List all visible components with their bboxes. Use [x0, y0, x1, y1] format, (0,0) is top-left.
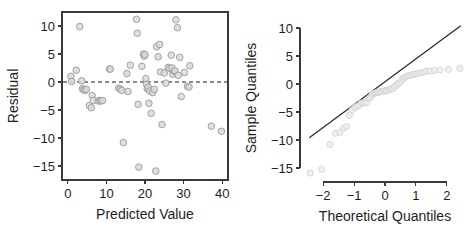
x-tick-label: 10: [99, 186, 113, 201]
y-axis-title: Sample Quantiles: [243, 43, 259, 154]
data-point: [76, 23, 83, 30]
data-point: [208, 123, 215, 130]
x-tick-label: 2: [443, 188, 450, 203]
data-point: [99, 97, 106, 104]
data-point: [163, 80, 170, 87]
x-tick-label: 20: [138, 186, 152, 201]
data-point: [178, 93, 185, 100]
y-tick-label: 0: [48, 75, 55, 90]
qq-reference-line: [309, 26, 460, 138]
data-point: [148, 110, 155, 117]
data-point: [327, 141, 333, 147]
data-point: [136, 164, 143, 171]
x-tick-label: 1: [412, 188, 419, 203]
data-point: [127, 62, 134, 69]
y-axis-title: Residual: [5, 69, 21, 123]
data-point: [445, 66, 451, 72]
data-point: [344, 123, 350, 129]
y-tick-label: −10: [271, 133, 293, 148]
data-point: [153, 168, 160, 175]
data-point: [175, 72, 182, 79]
x-tick-label: 40: [215, 186, 229, 201]
y-tick-label: −15: [271, 161, 293, 176]
data-point: [120, 139, 127, 146]
plot-frame: [62, 12, 228, 180]
data-point: [83, 86, 90, 93]
data-point: [307, 170, 313, 176]
y-tick-label: 10: [279, 21, 293, 36]
y-tick-label: −15: [33, 159, 55, 174]
y-tick-label: −10: [33, 131, 55, 146]
data-point: [173, 17, 180, 24]
data-point: [119, 87, 126, 94]
data-point: [319, 166, 325, 172]
data-point: [107, 66, 114, 73]
data-point: [176, 54, 183, 61]
data-point: [73, 67, 80, 74]
residual-plot-panel: 1050−5−10−15010203040Predicted ValueResi…: [0, 0, 238, 238]
data-point: [186, 84, 193, 91]
data-point: [457, 65, 463, 71]
data-point: [125, 88, 132, 95]
y-tick-label: 0: [286, 77, 293, 92]
y-tick-label: −5: [278, 105, 293, 120]
data-point: [146, 100, 153, 107]
x-tick-label: −1: [347, 188, 362, 203]
y-tick-label: 5: [48, 47, 55, 62]
residual-and-qq-figure: 1050−5−10−15010203040Predicted ValueResi…: [0, 0, 475, 238]
y-tick-label: 10: [41, 19, 55, 34]
data-point: [78, 78, 85, 85]
data-point: [133, 16, 140, 23]
data-point: [218, 128, 225, 135]
qq-plot-svg: 1050−5−10−15−2−1012Theoretical Quantiles…: [238, 0, 475, 238]
data-point: [437, 67, 443, 73]
y-tick-label: 5: [286, 49, 293, 64]
data-point: [124, 70, 131, 77]
x-tick-label: 0: [64, 186, 71, 201]
x-tick-label: −2: [316, 188, 331, 203]
data-point: [156, 41, 163, 48]
x-tick-label: 0: [381, 188, 388, 203]
data-point: [181, 69, 188, 76]
data-point: [88, 104, 95, 111]
data-point: [168, 52, 175, 59]
data-point: [151, 86, 158, 93]
data-point: [139, 63, 146, 70]
data-point: [134, 30, 141, 37]
data-point: [142, 51, 149, 58]
qq-plot-panel: 1050−5−10−15−2−1012Theoretical Quantiles…: [238, 0, 475, 238]
data-point: [186, 62, 193, 69]
data-point: [155, 54, 162, 61]
data-point: [174, 24, 181, 31]
data-point: [135, 101, 142, 108]
x-axis-title: Theoretical Quantiles: [319, 208, 451, 224]
residual-plot-svg: 1050−5−10−15010203040Predicted ValueResi…: [0, 0, 238, 238]
x-tick-label: 30: [176, 186, 190, 201]
x-axis-title: Predicted Value: [96, 206, 194, 222]
y-tick-label: −5: [40, 103, 55, 118]
data-point: [68, 78, 75, 85]
data-point: [159, 121, 166, 128]
